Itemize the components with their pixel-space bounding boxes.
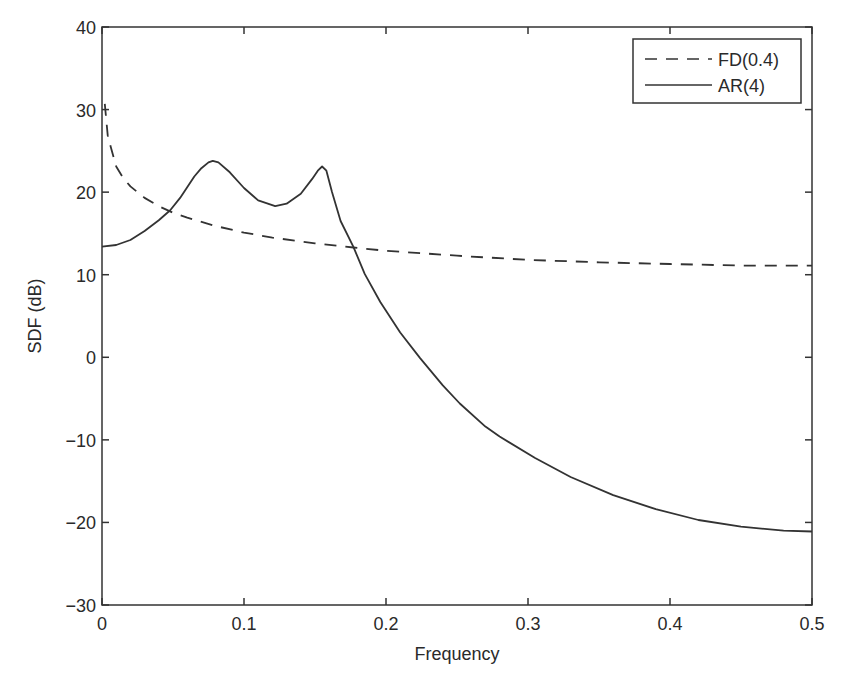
y-tick-label: 30 (76, 101, 96, 121)
legend-label-fd: FD(0.4) (718, 50, 779, 70)
x-tick-label: 0.4 (657, 614, 682, 634)
y-tick-label: −30 (65, 596, 96, 616)
x-tick-label: 0.1 (231, 614, 256, 634)
x-tick-label: 0.2 (373, 614, 398, 634)
fd-series-line (105, 104, 812, 266)
x-axis-label: Frequency (414, 644, 499, 664)
x-tick-label: 0.3 (515, 614, 540, 634)
y-tick-label: −10 (65, 431, 96, 451)
legend-box (633, 39, 801, 103)
y-tick-label: 10 (76, 266, 96, 286)
y-tick-label: 40 (76, 18, 96, 38)
sdf-chart: 00.10.20.30.40.5−30−20−10010203040 FD(0.… (0, 0, 847, 687)
axes-frame (102, 27, 812, 605)
legend: FD(0.4) AR(4) (633, 39, 801, 103)
y-axis-label: SDF (dB) (25, 278, 45, 353)
plot-area (102, 104, 812, 532)
y-tick-label: 20 (76, 183, 96, 203)
legend-label-ar: AR(4) (718, 76, 765, 96)
x-tick-label: 0 (97, 614, 107, 634)
y-tick-label: 0 (86, 348, 96, 368)
x-tick-label: 0.5 (799, 614, 824, 634)
axes: 00.10.20.30.40.5−30−20−10010203040 (65, 18, 824, 634)
ar-series-line (102, 161, 812, 532)
y-tick-label: −20 (65, 513, 96, 533)
